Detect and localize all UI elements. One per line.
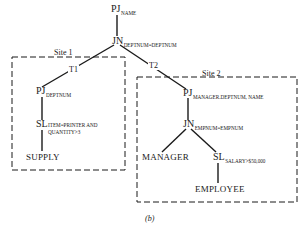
operator-subscript: EMPNUM=EMPNUM [195,125,243,131]
edge-label-t1: T1 [68,65,79,74]
site2-select-node: SLSALARY>$50,000 [213,152,265,162]
site1-label: Site 1 [54,48,72,57]
operator-subscript: DEPTNUM=DEPTNUM [124,42,177,48]
operator: SL [213,151,225,162]
relation-supply: SUPPLY [26,152,60,162]
site1-select-node: SL [36,119,48,129]
operator-subscript: SALARY>$50,000 [225,158,265,164]
tree-edges [0,0,303,229]
operator: JN [183,118,194,129]
operator: SL [36,118,48,129]
edge-label-t2: T2 [148,61,159,70]
operator-subscript: MANAGER.DEPTNUM, NAME [193,94,263,100]
operator: PJ [183,87,192,98]
operator: JN [112,35,123,46]
root-join-node: JNDEPTNUM=DEPTNUM [112,36,177,46]
root-project-node: PJNAME [111,4,136,14]
operator: PJ [36,85,45,96]
site1-select-subscript-line2: QUANTITY>3 [48,130,80,135]
operator-subscript: DEPTNUM [46,92,71,98]
site1-select-subscript-line1: ITEM=PRINTER AND [48,123,97,128]
figure-caption: (b) [145,214,154,223]
site2-join-node: JNEMPNUM=EMPNUM [183,119,243,129]
site2-project-node: PJMANAGER.DEPTNUM, NAME [183,88,263,98]
site2-label: Site 2 [202,69,220,78]
relation-employee: EMPLOYEE [195,184,245,194]
operator: PJ [111,3,120,14]
site1-project-node: PJDEPTNUM [36,86,71,96]
relation-manager: MANAGER [142,152,189,162]
operator-subscript: NAME [121,10,136,16]
